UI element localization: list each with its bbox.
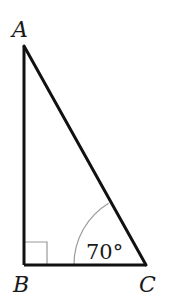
vertex-label-b: B bbox=[12, 272, 29, 297]
vertex-label-a: A bbox=[10, 17, 28, 42]
triangle-diagram: A B C 70° bbox=[0, 0, 169, 307]
angle-label-c: 70° bbox=[86, 240, 123, 264]
right-angle-marker bbox=[24, 242, 47, 265]
side-ac bbox=[24, 46, 146, 265]
vertex-label-c: C bbox=[139, 272, 156, 297]
